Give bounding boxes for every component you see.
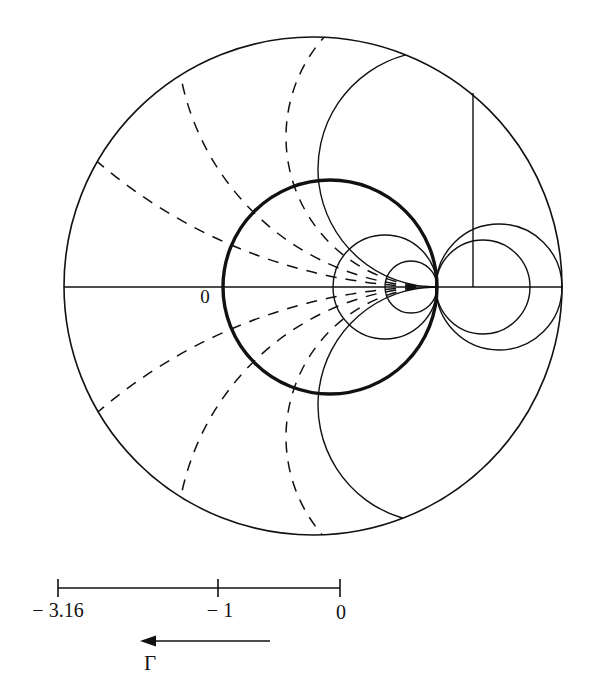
scale-tick-label-left: − 3.16	[32, 599, 83, 621]
gamma-axis-label: Γ	[144, 651, 156, 675]
scale-tick-label-mid: − 1	[207, 599, 233, 621]
figure-background	[0, 0, 589, 698]
smith-chart-figure: 0 Γ − 3.16 − 1 0	[0, 0, 589, 698]
smith-chart-canvas: 0 Γ − 3.16 − 1 0	[0, 0, 589, 698]
origin-label: 0	[200, 286, 210, 307]
scale-tick-label-right: 0	[336, 601, 346, 623]
